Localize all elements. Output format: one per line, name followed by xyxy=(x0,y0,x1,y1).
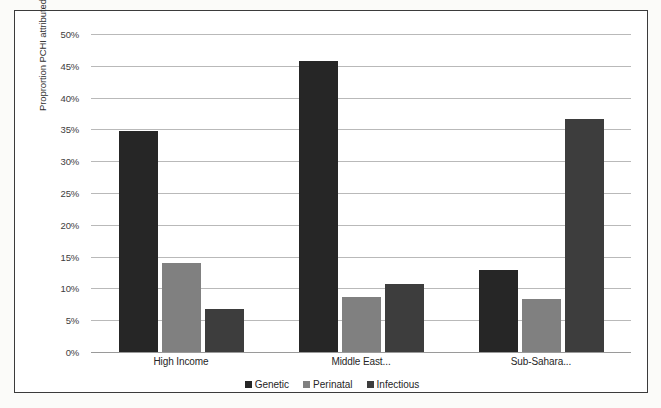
legend-label: Genetic xyxy=(255,379,289,390)
y-tick-label: 35% xyxy=(61,124,79,135)
gridline-40% xyxy=(91,98,631,99)
x-category-label: High Income xyxy=(91,356,271,367)
gridline-20% xyxy=(91,225,631,226)
legend-swatch-icon xyxy=(367,381,374,388)
bar-genetic-2[interactable] xyxy=(479,270,518,352)
bar-perinatal-1[interactable] xyxy=(342,297,381,352)
bar-infectious-0[interactable] xyxy=(205,309,244,352)
legend-item-infectious[interactable]: Infectious xyxy=(367,379,420,390)
gridline-25% xyxy=(91,193,631,194)
gridline-0% xyxy=(91,352,631,353)
y-tick-label: 40% xyxy=(61,92,79,103)
gridline-45% xyxy=(91,66,631,67)
bar-perinatal-2[interactable] xyxy=(522,299,561,352)
y-tick-label: 0% xyxy=(66,347,79,358)
bar-infectious-1[interactable] xyxy=(385,284,424,352)
bar-genetic-1[interactable] xyxy=(299,61,338,352)
bar-genetic-0[interactable] xyxy=(119,131,158,352)
chart-legend: GeneticPerinatalInfectious xyxy=(15,379,649,390)
gridline-15% xyxy=(91,257,631,258)
x-axis-category-labels: High IncomeMiddle East...Sub-Sahara... xyxy=(91,356,631,376)
y-tick-label: 30% xyxy=(61,156,79,167)
y-tick-label: 25% xyxy=(61,188,79,199)
chart-container: Proprortion PCHI attributed 50%45%40%35%… xyxy=(14,10,648,393)
x-category-label: Sub-Sahara... xyxy=(451,356,631,367)
legend-label: Infectious xyxy=(377,379,420,390)
legend-label: Perinatal xyxy=(313,379,352,390)
y-tick-label: 10% xyxy=(61,283,79,294)
plot-area xyxy=(91,34,631,352)
y-tick-label: 15% xyxy=(61,251,79,262)
legend-swatch-icon xyxy=(303,381,310,388)
gridline-30% xyxy=(91,161,631,162)
bar-perinatal-0[interactable] xyxy=(162,263,201,352)
y-tick-label: 50% xyxy=(61,29,79,40)
gridline-50% xyxy=(91,34,631,35)
scanned-page: Proprortion PCHI attributed 50%45%40%35%… xyxy=(0,0,661,408)
y-axis-tick-labels: 50%45%40%35%30%25%20%15%10%5%0% xyxy=(15,34,85,352)
y-tick-label: 45% xyxy=(61,60,79,71)
gridline-35% xyxy=(91,129,631,130)
x-category-label: Middle East... xyxy=(271,356,451,367)
legend-item-genetic[interactable]: Genetic xyxy=(245,379,289,390)
y-tick-label: 5% xyxy=(66,315,79,326)
y-tick-label: 20% xyxy=(61,219,79,230)
legend-item-perinatal[interactable]: Perinatal xyxy=(303,379,352,390)
legend-swatch-icon xyxy=(245,381,252,388)
bar-infectious-2[interactable] xyxy=(565,119,604,352)
